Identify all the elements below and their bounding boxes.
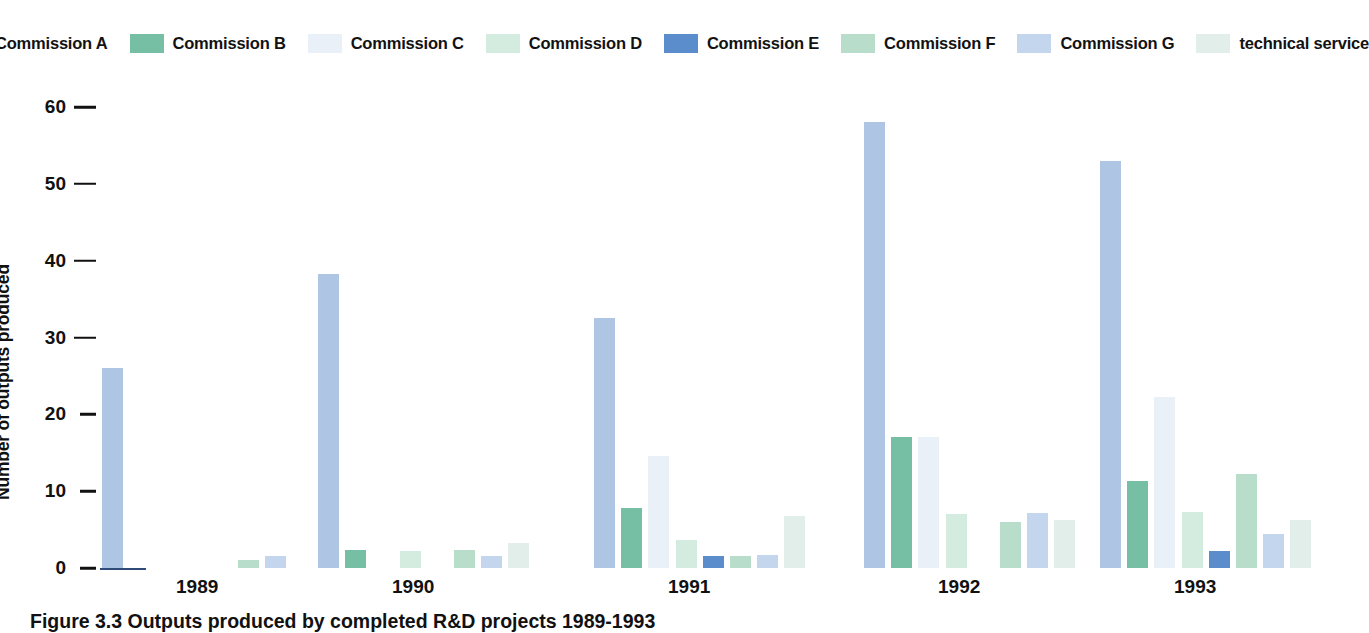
bar <box>1054 520 1075 568</box>
bar <box>594 318 615 568</box>
bar <box>102 368 123 568</box>
bar <box>918 437 939 568</box>
bar <box>703 556 724 568</box>
x-axis-tick-label: 1993 <box>1174 576 1216 598</box>
x-axis-tick-label: 1992 <box>938 576 980 598</box>
bar <box>1263 534 1284 568</box>
bar <box>1236 474 1257 569</box>
bar <box>864 122 885 568</box>
bar <box>784 516 805 568</box>
bar <box>345 550 366 568</box>
bar <box>1290 520 1311 568</box>
bar <box>891 437 912 568</box>
x-axis-tick-label: 1990 <box>392 576 434 598</box>
bar <box>238 560 259 568</box>
bar <box>1154 397 1175 568</box>
bar <box>1027 513 1048 568</box>
bar <box>1100 161 1121 568</box>
figure-caption: Figure 3.3 Outputs produced by completed… <box>30 610 1310 633</box>
bar <box>454 550 475 568</box>
bar <box>648 456 669 568</box>
x-axis-tick-label: 1991 <box>668 576 710 598</box>
bar <box>318 274 339 568</box>
bar <box>757 555 778 568</box>
bar <box>730 556 751 568</box>
bar <box>481 556 502 568</box>
bar <box>621 508 642 568</box>
bar <box>1209 551 1230 568</box>
bar <box>265 556 286 568</box>
bar <box>676 540 697 568</box>
bar <box>1000 522 1021 568</box>
bar <box>1127 481 1148 568</box>
bar <box>946 514 967 568</box>
bar <box>1182 512 1203 568</box>
bar <box>400 551 421 568</box>
x-axis-tick-label: 1989 <box>176 576 218 598</box>
bar <box>508 543 529 568</box>
